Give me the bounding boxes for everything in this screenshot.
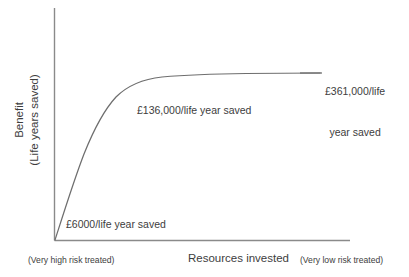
- y-axis-title: Benefit (Life years saved): [12, 74, 42, 165]
- x-axis-title: Resources invested: [188, 252, 289, 266]
- chart-figure: Benefit (Life years saved) £6000/life ye…: [0, 0, 409, 277]
- annotation-very-low-risk-cost-line1: £361,000/life: [325, 85, 385, 99]
- annotation-mid-cost: £136,000/life year saved: [137, 104, 251, 116]
- x-axis-right-note: (Very low risk treated): [300, 255, 383, 265]
- annotation-very-low-risk-cost-line2: year saved: [325, 126, 385, 140]
- annotation-very-low-risk-cost: £361,000/life year saved: [325, 57, 385, 168]
- annotation-very-high-risk-cost: £6000/life year saved: [66, 218, 166, 230]
- y-axis-title-line1: Benefit: [12, 74, 27, 165]
- benefit-curve: [55, 73, 320, 240]
- y-axis-title-container: Benefit (Life years saved): [0, 0, 54, 240]
- y-axis-title-line2: (Life years saved): [27, 74, 42, 165]
- x-axis-left-note: (Very high risk treated): [28, 255, 114, 265]
